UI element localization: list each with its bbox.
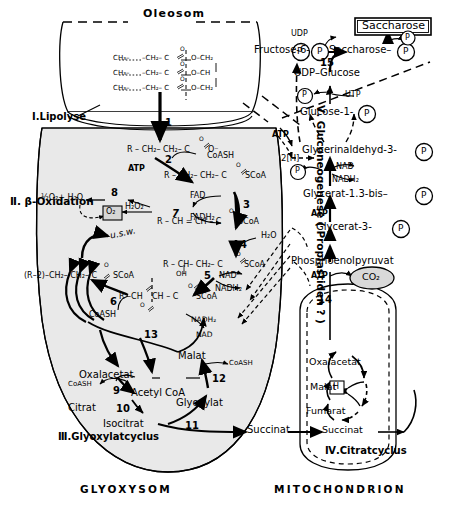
step-6: 6 <box>110 297 117 307</box>
step-12: 12 <box>212 374 226 384</box>
step-1: 1 <box>165 118 172 128</box>
step-14: 14 <box>318 295 332 305</box>
step-5: 5 <box>204 271 211 281</box>
step-15: 15 <box>320 58 334 68</box>
step-9: 9 <box>113 386 120 396</box>
step-7: 7 <box>172 209 179 219</box>
step-13: 13 <box>144 330 158 340</box>
step-2: 2 <box>165 155 172 165</box>
step-10: 10 <box>116 404 130 414</box>
step-8: 8 <box>111 188 118 198</box>
step-3: 3 <box>243 200 250 210</box>
step-11: 11 <box>185 421 199 431</box>
step-4: 4 <box>240 240 247 250</box>
pathway-diagram: Oleosom I.Lipolyse Ⅱ. β-Oxidation Ⅲ.Glyo… <box>0 0 449 509</box>
